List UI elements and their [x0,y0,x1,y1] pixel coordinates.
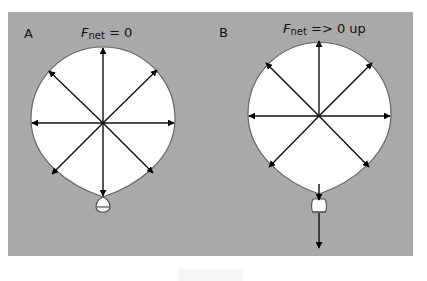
force-subscript: net [290,26,306,37]
balloon-b-open-neck [312,199,327,212]
balloon-b [248,41,391,248]
force-subscript: net [88,30,104,41]
force-label-a: Fnet = 0 [81,25,132,40]
panel-label-b: B [219,25,228,40]
force-relation: => 0 up [307,21,366,36]
panel-label-a: A [24,26,33,41]
balloon-a [31,47,175,212]
footer-placeholder [178,269,243,281]
force-label-b: Fnet => 0 up [283,21,366,36]
balloon-a-knot [96,197,110,212]
force-relation: = 0 [105,25,132,40]
balloon-diagrams [0,0,427,281]
